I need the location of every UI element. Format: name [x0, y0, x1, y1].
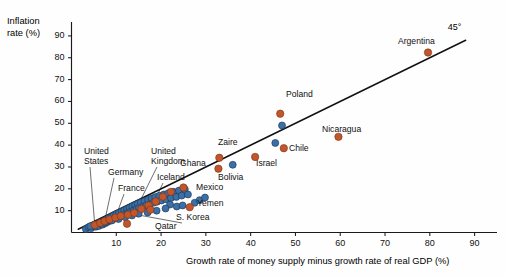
point-label-line: States — [84, 156, 108, 166]
point-label-line: United — [151, 146, 176, 156]
point-label-line: Qatar — [155, 221, 177, 231]
data-point — [277, 110, 284, 117]
point-label: Germany — [108, 167, 143, 177]
data-point — [216, 154, 223, 161]
data-point — [147, 206, 154, 213]
y-axis-title: Inflation rate (%) — [7, 16, 40, 39]
data-point — [152, 198, 159, 205]
point-label: France — [118, 183, 145, 193]
point-label: Zaire — [218, 137, 238, 147]
point-label-line: Israel — [256, 158, 277, 168]
x-tick-label: 30 — [191, 238, 221, 248]
y-axis-title-line2: rate (%) — [7, 28, 40, 38]
data-point — [138, 205, 145, 212]
data-point — [179, 202, 186, 209]
leader-line — [90, 167, 95, 225]
point-label: S. Korea — [176, 212, 209, 222]
data-point — [184, 191, 191, 198]
data-point — [280, 144, 287, 151]
point-label-line: Chile — [289, 143, 309, 153]
point-label-line: Nicaragua — [322, 124, 361, 134]
point-label-line: Mexico — [196, 182, 223, 192]
x-tick-label: 10 — [101, 238, 131, 248]
point-label: Israel — [256, 158, 277, 168]
data-point — [178, 192, 185, 199]
data-point — [180, 184, 187, 191]
data-point — [131, 209, 138, 216]
data-point — [186, 203, 193, 210]
point-label: Iceland — [157, 172, 185, 182]
data-point — [117, 212, 124, 219]
point-label-line: Poland — [286, 89, 313, 99]
point-label: Bolivia — [218, 172, 243, 182]
point-label: Mexico — [196, 182, 223, 192]
data-point — [424, 49, 431, 56]
x-tick-label: 90 — [460, 238, 490, 248]
x-tick-label: 40 — [236, 238, 266, 248]
x-tick-label: 80 — [415, 238, 445, 248]
data-point — [229, 161, 236, 168]
point-label-line: United — [84, 146, 109, 156]
x-tick-label: 50 — [280, 238, 310, 248]
point-label-line: Germany — [108, 167, 143, 177]
point-label-line: S. Korea — [176, 212, 209, 222]
data-point — [272, 139, 279, 146]
y-tick-label: 40 — [45, 139, 65, 149]
point-label-line: Ghana — [180, 158, 206, 168]
data-point — [167, 188, 174, 195]
point-label: Yemen — [197, 198, 223, 208]
point-label: UnitedStates — [84, 146, 109, 166]
y-tick-label: 50 — [45, 117, 65, 127]
point-label-line: Yemen — [197, 198, 223, 208]
y-tick-label: 90 — [45, 30, 65, 40]
x-axis-title: Growth rate of money supply minus growth… — [186, 256, 449, 266]
reference-line-label: 45° — [448, 22, 462, 32]
x-tick-label: 20 — [146, 238, 176, 248]
point-label: Poland — [286, 89, 313, 99]
y-tick-label: 60 — [45, 95, 65, 105]
point-label: Argentina — [398, 36, 435, 46]
x-tick-label: 60 — [325, 238, 355, 248]
y-axis-title-line1: Inflation — [7, 16, 40, 26]
point-label-line: Zaire — [218, 137, 238, 147]
y-tick-label: 80 — [45, 52, 65, 62]
y-tick-label: 10 — [45, 205, 65, 215]
point-label-line: Iceland — [157, 172, 185, 182]
inflation-money-growth-scatter-figure: 102030405060708090 102030405060708090 Un… — [0, 0, 506, 278]
data-point — [123, 220, 130, 227]
point-label: Nicaragua — [322, 124, 361, 134]
data-point — [335, 133, 342, 140]
point-label-line: Bolivia — [218, 172, 243, 182]
y-tick-label: 30 — [45, 161, 65, 171]
x-tick-label: 70 — [370, 238, 400, 248]
data-point — [279, 122, 286, 129]
data-points-layer — [82, 49, 431, 233]
point-label: Qatar — [155, 221, 177, 231]
y-tick-label: 70 — [45, 74, 65, 84]
point-label-line: Argentina — [398, 36, 435, 46]
point-label-line: France — [118, 183, 145, 193]
data-point — [162, 205, 169, 212]
y-tick-label: 20 — [45, 183, 65, 193]
data-point — [159, 193, 166, 200]
point-label: Chile — [289, 143, 309, 153]
point-label: Ghana — [180, 158, 206, 168]
